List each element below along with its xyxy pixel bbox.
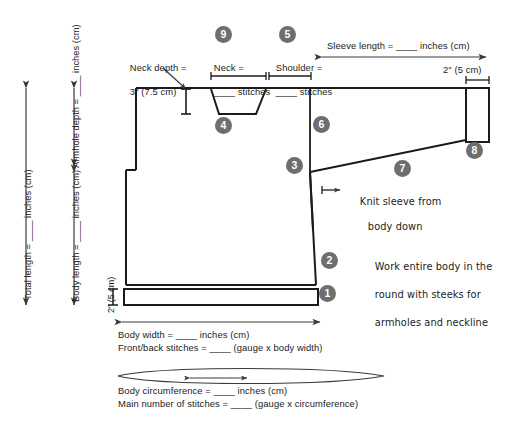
total-length-label: Total length = ____ inches (cm) [22, 169, 34, 300]
marker-9[interactable]: 9 [215, 26, 232, 43]
knit-sleeve-note: Knit sleeve from body down [347, 183, 441, 246]
body-circumference-measure [118, 369, 384, 384]
neck-label-line2: ____ stitches [214, 86, 271, 97]
neck-depth-line2: 3″ (7.5 cm) [130, 86, 177, 97]
front-back-stitches-label: Front/back stitches = ____ (gauge x body… [118, 342, 323, 354]
body-length-label: Body length = ____ inches (cm) [70, 170, 82, 302]
cuff-width-measure [466, 76, 489, 84]
marker-8[interactable]: 8 [466, 142, 483, 159]
marker-7[interactable]: 7 [394, 160, 411, 177]
cuff-outline [466, 88, 489, 142]
neck-label-line1: Neck = [214, 62, 244, 73]
cuff-width-label: 2″ (5 cm) [443, 64, 482, 76]
hem-band [124, 289, 318, 305]
body-width-label: Body width = ____ inches (cm) [118, 329, 249, 341]
main-number-stitches-label: Main number of stitches = ____ (gauge x … [118, 398, 358, 410]
marker-4[interactable]: 4 [215, 117, 232, 134]
steeks-line1: Work entire body in the [375, 261, 492, 272]
sleeve-length-label: Sleeve length = ____ inches (cm) [327, 40, 470, 52]
schematic-diagram: Neck depth = 3″ (7.5 cm) Neck = ____ sti… [0, 0, 508, 424]
neck-depth-line1: Neck depth = [130, 62, 187, 73]
shoulder-label: Shoulder = ____ stitches [265, 50, 332, 110]
body-right-edge [310, 172, 313, 230]
shoulder-label-line2: ____ stitches [276, 86, 333, 97]
knit-sleeve-line1: Knit sleeve from [360, 196, 442, 207]
neck-depth-label: Neck depth = 3″ (7.5 cm) [119, 50, 187, 110]
neck-label: Neck = ____ stitches [203, 50, 270, 110]
marker-6[interactable]: 6 [313, 116, 330, 133]
shoulder-label-line1: Shoulder = [276, 62, 323, 73]
knit-direction-arrow [322, 186, 340, 194]
knit-sleeve-line2: body down [368, 221, 423, 234]
steeks-line3: armholes and neckline [375, 317, 488, 328]
hem-height-label: 2″ (5 cm) [106, 277, 118, 313]
marker-2[interactable]: 2 [321, 252, 338, 269]
steeks-line2: round with steeks for [375, 289, 481, 300]
marker-5[interactable]: 5 [279, 26, 296, 43]
marker-3[interactable]: 3 [286, 157, 303, 174]
body-circumference-label: Body circumference = ____ inches (cm) [118, 385, 287, 397]
marker-1[interactable]: 1 [319, 285, 336, 302]
steeks-note: Work entire body in the round with steek… [362, 246, 492, 344]
armhole-depth-label: Armhole depth = ____ inches (cm) [70, 24, 82, 168]
